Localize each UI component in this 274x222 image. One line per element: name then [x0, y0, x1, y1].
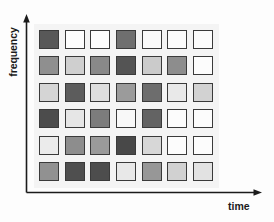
heatmap-cell-wrap [190, 132, 216, 159]
heatmap-cell-wrap [62, 159, 88, 186]
y-axis-arrowhead [23, 14, 30, 23]
heatmap-cell-wrap [165, 132, 191, 159]
heatmap-cell-wrap [139, 26, 165, 53]
heatmap-cell-wrap [87, 53, 113, 80]
heatmap-cell [65, 162, 85, 181]
heatmap-cell [90, 56, 110, 75]
heatmap-cell-wrap [190, 79, 216, 106]
heatmap-cell [167, 30, 187, 49]
heatmap-cell-wrap [113, 132, 139, 159]
heatmap-cell [116, 30, 136, 49]
heatmap-cell [116, 109, 136, 128]
heatmap-cell [167, 83, 187, 102]
heatmap-cell [167, 162, 187, 181]
heatmap-cell-wrap [113, 106, 139, 133]
plot-panel [34, 24, 219, 188]
heatmap-cell [167, 109, 187, 128]
heatmap-cell [65, 83, 85, 102]
heatmap-cell-wrap [113, 26, 139, 53]
heatmap-cell [116, 162, 136, 181]
heatmap-cell-wrap [165, 159, 191, 186]
heatmap-cell [39, 162, 59, 181]
heatmap-cell [65, 109, 85, 128]
heatmap-cell-wrap [165, 106, 191, 133]
heatmap-cell-wrap [190, 53, 216, 80]
heatmap-cell [90, 136, 110, 155]
heatmap-cell [90, 162, 110, 181]
heatmap-cell [193, 83, 213, 102]
heatmap-cell [39, 83, 59, 102]
heatmap-cell [167, 136, 187, 155]
heatmap-cell-wrap [190, 26, 216, 53]
heatmap-cell [65, 30, 85, 49]
heatmap-cell-wrap [62, 53, 88, 80]
heatmap-cell-wrap [139, 53, 165, 80]
heatmap-cell-wrap [36, 132, 62, 159]
heatmap-cell-wrap [190, 159, 216, 186]
heatmap-cell [193, 162, 213, 181]
heatmap-cell [116, 56, 136, 75]
spectrogram-figure: frequency time [0, 0, 274, 222]
heatmap-cell [39, 56, 59, 75]
heatmap-cell-wrap [36, 53, 62, 80]
heatmap-cell-wrap [36, 159, 62, 186]
heatmap-cell-wrap [62, 26, 88, 53]
heatmap-cell-wrap [36, 26, 62, 53]
heatmap-cell-wrap [139, 159, 165, 186]
heatmap-cell-wrap [165, 53, 191, 80]
heatmap-cell [65, 136, 85, 155]
heatmap-cell-wrap [139, 106, 165, 133]
heatmap-grid [34, 24, 219, 188]
heatmap-cell-wrap [62, 132, 88, 159]
heatmap-cell-wrap [62, 106, 88, 133]
heatmap-cell [90, 109, 110, 128]
heatmap-cell [90, 30, 110, 49]
heatmap-cell-wrap [113, 79, 139, 106]
heatmap-cell [142, 83, 162, 102]
heatmap-cell-wrap [165, 79, 191, 106]
x-axis-arrowhead [254, 189, 263, 196]
heatmap-cell-wrap [165, 26, 191, 53]
heatmap-cell [193, 56, 213, 75]
heatmap-cell-wrap [113, 53, 139, 80]
heatmap-cell [116, 136, 136, 155]
x-axis-label: time [228, 200, 250, 212]
heatmap-cell-wrap [113, 159, 139, 186]
heatmap-cell [90, 83, 110, 102]
heatmap-cell-wrap [62, 79, 88, 106]
heatmap-cell-wrap [190, 106, 216, 133]
heatmap-cell [193, 109, 213, 128]
heatmap-cell [142, 109, 162, 128]
heatmap-cell [193, 30, 213, 49]
heatmap-cell [116, 83, 136, 102]
heatmap-cell [142, 136, 162, 155]
heatmap-cell-wrap [87, 159, 113, 186]
heatmap-cell-wrap [139, 132, 165, 159]
heatmap-cell-wrap [36, 106, 62, 133]
heatmap-cell [39, 136, 59, 155]
heatmap-cell-wrap [87, 26, 113, 53]
heatmap-cell [142, 56, 162, 75]
heatmap-cell [39, 109, 59, 128]
heatmap-cell-wrap [87, 79, 113, 106]
heatmap-cell [167, 56, 187, 75]
heatmap-cell [142, 30, 162, 49]
y-axis-label: frequency [7, 17, 19, 87]
heatmap-cell [193, 136, 213, 155]
heatmap-cell [142, 162, 162, 181]
heatmap-cell-wrap [139, 79, 165, 106]
heatmap-cell [65, 56, 85, 75]
heatmap-cell-wrap [87, 132, 113, 159]
heatmap-cell-wrap [36, 79, 62, 106]
heatmap-cell-wrap [87, 106, 113, 133]
heatmap-cell [39, 30, 59, 49]
